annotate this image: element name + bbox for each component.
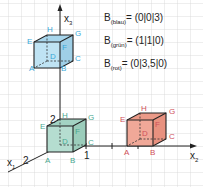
red-label-d: D	[142, 130, 148, 138]
blue-label-d: D	[50, 53, 56, 61]
green-label-a: A	[45, 157, 50, 165]
red-label-f: F	[155, 121, 160, 129]
red-label-e: E	[120, 116, 125, 124]
red-label-c: C	[169, 133, 175, 141]
blue-label-e: E	[27, 38, 32, 46]
grid-background	[0, 0, 203, 187]
x2-axis-label: x2	[190, 150, 198, 163]
red-label-b: B	[150, 149, 155, 157]
blue-label-g: G	[75, 30, 81, 38]
equation-rot: B(rot)= (0|3,5|0)	[104, 58, 167, 71]
green-label-c: C	[88, 139, 94, 147]
x2-tick-label: 1	[84, 150, 90, 161]
green-label-e: E	[40, 123, 45, 131]
green-label-b: B	[70, 157, 75, 165]
blue-label-a: A	[29, 65, 34, 73]
equation-blau: B(blau)= (0|0|3)	[104, 12, 163, 25]
red-label-g: G	[169, 108, 175, 116]
x1-tick-label: 2	[23, 155, 29, 166]
green-label-f: F	[75, 128, 80, 136]
red-label-h: H	[141, 105, 147, 113]
green-label-d: D	[62, 138, 68, 146]
coordinate-diagram: A B C D E F G H A B C D E F G H A B C D …	[0, 0, 203, 187]
green-label-g: G	[88, 114, 94, 122]
blue-label-f: F	[62, 44, 67, 52]
x3-tick-label: 2	[50, 114, 56, 125]
x1-axis-label: x1	[7, 157, 15, 170]
blue-label-h: H	[47, 26, 53, 34]
red-label-a: A	[124, 149, 129, 157]
green-label-h: H	[62, 112, 68, 120]
blue-label-c: C	[75, 55, 81, 63]
grid-and-cubes	[0, 0, 203, 187]
equation-gruen: B(grün)= (1|1|0)	[104, 35, 164, 48]
blue-label-b: B	[61, 65, 66, 73]
x3-axis-label: x3	[64, 13, 72, 26]
